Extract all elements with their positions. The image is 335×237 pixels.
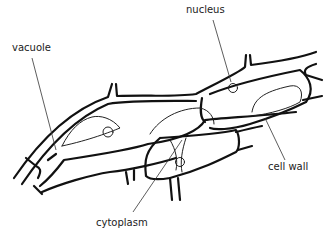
plant-cell-diagram xyxy=(0,0,335,237)
leader-nucleus xyxy=(213,20,231,82)
leader-cell-wall xyxy=(265,118,285,160)
label-cytoplasm: cytoplasm xyxy=(96,217,148,228)
vacuole-outlines xyxy=(62,86,302,172)
nucleus-left xyxy=(103,127,113,137)
label-nucleus: nucleus xyxy=(186,4,225,15)
label-cell-wall: cell wall xyxy=(268,161,308,172)
cell-walls xyxy=(14,52,322,200)
label-vacuole: vacuole xyxy=(12,42,51,53)
leader-vacuole xyxy=(32,58,56,150)
